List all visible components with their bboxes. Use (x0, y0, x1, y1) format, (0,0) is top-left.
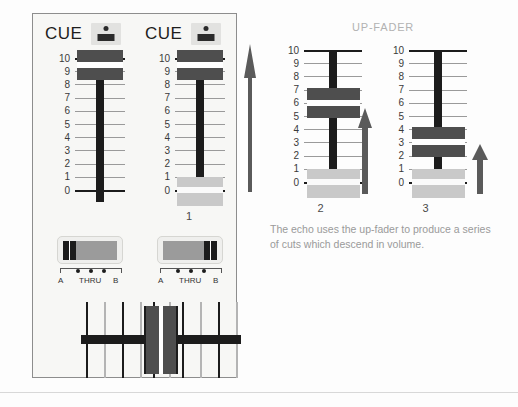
fader-tick-label: 6 (164, 106, 170, 116)
fader-travel-shadow (412, 169, 465, 198)
fader-tick-label: 4 (64, 133, 70, 143)
fader-tick-label: 5 (164, 120, 170, 130)
crossfader-knob-slot (159, 306, 163, 374)
fader-tick-label: 7 (164, 93, 170, 103)
fader-tick-label: 7 (293, 85, 299, 95)
selector-a[interactable]: A THRU B (57, 236, 123, 292)
selector-dot-thru (89, 269, 93, 273)
fader-tick-label: 3 (164, 146, 170, 156)
selector-a-switch[interactable] (63, 241, 117, 260)
fader-tick-label: 8 (398, 72, 404, 82)
selector-b-body[interactable] (157, 236, 223, 264)
cue-button-b[interactable] (191, 23, 221, 45)
channel-fader-b[interactable]: 109876543210 (153, 58, 225, 204)
fader-tick-label: 4 (398, 125, 404, 135)
cue-group-a: CUE (45, 23, 121, 45)
fader-tick-label: 8 (64, 80, 70, 90)
fader-caption-1: 1 (153, 210, 225, 222)
cue-label-b: CUE (145, 24, 182, 44)
selector-b-switch[interactable] (163, 241, 217, 260)
fader-tick-label: 10 (288, 46, 299, 56)
fader-knob[interactable] (177, 50, 223, 80)
fader-tick-label: 7 (398, 85, 404, 95)
selector-a-body[interactable] (57, 236, 123, 264)
fader-tick-label: 10 (159, 54, 170, 64)
fader-tick-label: 4 (293, 125, 299, 135)
fader-tick-label: 10 (59, 54, 70, 64)
fader-knob-slot (77, 62, 123, 68)
selector-dot-thru (189, 269, 193, 273)
fader-tick-label: 7 (64, 93, 70, 103)
cue-label-a: CUE (45, 24, 82, 44)
fader-tick-label: 1 (293, 164, 299, 174)
up-fader-3[interactable]: 109876543210 (383, 50, 468, 196)
selector-dot-b (202, 269, 206, 273)
up-fader-2[interactable]: 109876543210 (278, 50, 363, 196)
fader-tick-label: 2 (293, 151, 299, 161)
channel-fader-a[interactable]: 109876543210 (53, 58, 125, 204)
fader-caption-2: 2 (278, 202, 363, 214)
lever-line-icon (210, 241, 211, 260)
fader-tick-label: 3 (64, 146, 70, 156)
fader-tick-label: 8 (293, 72, 299, 82)
fader-tick-label: 10 (393, 46, 404, 56)
fader-knob-slot (177, 62, 223, 68)
cue-indicator-icon (204, 26, 209, 31)
arrow-medium-travel-icon (355, 108, 375, 194)
fader-travel-shadow (177, 177, 223, 206)
fader-knob-slot (307, 100, 360, 106)
cue-group-b: CUE (145, 23, 221, 45)
selector-a-label-thru: THRU (79, 276, 101, 285)
selector-dot-a (176, 269, 180, 273)
page-divider (0, 392, 518, 393)
fader-tick-label: 0 (398, 178, 404, 188)
lever-line-icon (69, 241, 70, 260)
fader-tick-label: 2 (164, 159, 170, 169)
fader-tick-label: 0 (293, 178, 299, 188)
section-title: UP-FADER (352, 21, 414, 33)
selector-b-label-b: B (213, 276, 218, 285)
fader-knob[interactable] (412, 127, 465, 157)
fader-tick-label: 1 (164, 172, 170, 182)
selector-b-label-thru: THRU (179, 276, 201, 285)
arrow-full-travel-icon (240, 44, 260, 192)
fader-tick-label: 6 (293, 98, 299, 108)
fader-tick-label: 1 (398, 164, 404, 174)
fader-tick-label: 2 (64, 159, 70, 169)
fader-tick-label: 9 (164, 67, 170, 77)
fader-knob[interactable] (307, 88, 360, 118)
selector-a-label-b: B (113, 276, 118, 285)
crossfader[interactable] (81, 302, 241, 378)
fader-caption-3: 3 (383, 202, 468, 214)
cue-button-a[interactable] (91, 23, 121, 45)
fader-tick-label: 9 (398, 59, 404, 69)
fader-travel-shadow (307, 169, 360, 198)
fader-tick-label: 3 (293, 138, 299, 148)
fader-knob-slot (412, 139, 465, 145)
arrow-short-travel-icon (470, 144, 490, 194)
selector-b[interactable]: A THRU B (157, 236, 223, 292)
crossfader-knob[interactable] (144, 306, 178, 374)
diagram-caption: The echo uses the up-fader to produce a … (270, 222, 500, 252)
fader-tick-label: 6 (398, 98, 404, 108)
selector-a-scale: A THRU B (60, 268, 122, 290)
fader-tick-label: 5 (293, 112, 299, 122)
fader-tick-label: 5 (64, 120, 70, 130)
diagram-canvas: CUE CUE 109876543210 109876543210 1 (0, 0, 518, 407)
fader-tick-label: 2 (398, 151, 404, 161)
selector-b-label-a: A (158, 276, 163, 285)
selector-b-lever[interactable] (204, 241, 217, 260)
mixer-panel: CUE CUE 109876543210 109876543210 1 (32, 13, 237, 378)
fader-knob[interactable] (77, 50, 123, 80)
fader-tick-label: 8 (164, 80, 170, 90)
fader-tick-label: 6 (64, 106, 70, 116)
selector-a-lever[interactable] (63, 241, 76, 260)
crossfader-knob-edge-left (144, 306, 146, 374)
cue-bar-icon (198, 34, 215, 41)
cue-bar-icon (98, 34, 115, 41)
fader-tick-label: 3 (398, 138, 404, 148)
fader-travel-shadow-slot (412, 179, 465, 185)
fader-travel-shadow-slot (177, 187, 223, 193)
fader-tick-label: 5 (398, 112, 404, 122)
selector-dot-b (102, 269, 106, 273)
